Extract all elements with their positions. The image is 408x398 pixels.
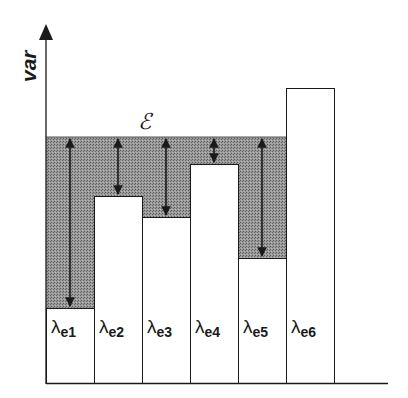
diagram-canvas: var ℰ λe1λe2λe3λe4λe5λe6 [0, 0, 408, 398]
bar-e4 [191, 165, 239, 384]
y-axis-label: var [17, 49, 40, 82]
y-axis-arrow-icon [39, 24, 53, 40]
bar-e2 [95, 197, 143, 384]
region-label: ℰ [138, 109, 154, 134]
bar-e3 [143, 218, 191, 384]
